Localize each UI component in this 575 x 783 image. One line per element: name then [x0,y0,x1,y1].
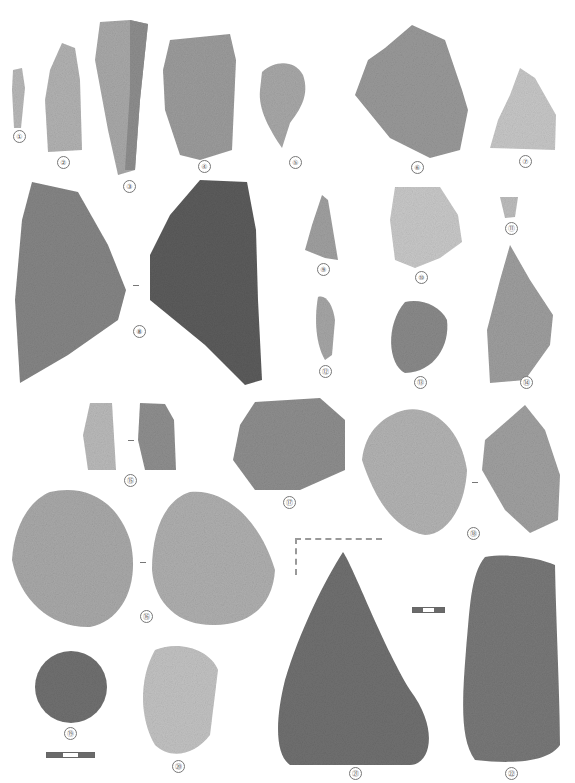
artifact-5 [260,63,306,148]
artifact-10 [390,187,462,268]
artifact-7 [490,68,556,150]
artifact-label-16: ⑯ [140,610,153,623]
artifact-label-9: ⑨ [317,263,330,276]
scale-segment [413,608,423,612]
artifact-label-2: ② [57,156,70,169]
artifact-13 [391,301,447,373]
scale-bar-large-finds [412,607,445,613]
artifact-label-21: ㉑ [349,767,362,780]
artifact-8-face-b [150,180,262,385]
artifact-9 [305,195,338,260]
artifact-label-6: ⑥ [411,161,424,174]
pair-connector-15 [128,440,134,441]
artifact-plate: ① ② ③ ④ ⑤ ⑥ ⑦ ⑧ ⑨ ⑩ ⑪ ⑫ ⑬ ⑭ ⑮ ⑯ ⑰ ⑱ ⑲ ⑳ … [0,0,575,783]
artifact-label-11: ⑪ [505,222,518,235]
artifact-2 [45,43,82,152]
artifact-label-14: ⑭ [520,376,533,389]
artifact-label-22: ㉒ [505,767,518,780]
dashed-frame-corner [295,538,382,575]
scale-segment [78,753,94,757]
scale-segment [434,608,444,612]
artifact-11 [500,197,518,218]
artifact-label-1: ① [13,130,26,143]
artifact-label-15: ⑮ [124,474,137,487]
artifact-14 [487,245,553,383]
artifact-15-face-b [138,403,176,470]
artifact-19 [35,651,107,723]
artifact-16-face-b [152,492,275,625]
artifact-4 [163,34,236,160]
artifact-label-12: ⑫ [319,365,332,378]
artifact-label-4: ④ [198,160,211,173]
scale-segment [47,753,63,757]
pair-connector-16 [140,562,146,563]
scale-segment [63,753,79,757]
artifact-17 [233,398,345,490]
scale-segment [423,608,433,612]
artifact-label-19: ⑲ [64,727,77,740]
artifact-photographs [0,0,575,783]
artifact-20 [143,646,218,754]
scale-bar-small-finds [46,752,95,758]
artifact-label-17: ⑰ [283,496,296,509]
artifact-label-10: ⑩ [415,271,428,284]
artifact-label-8: ⑧ [133,325,146,338]
artifact-18-face-a [362,409,467,535]
artifact-21 [278,552,429,765]
artifact-12 [316,297,335,360]
artifact-label-13: ⑬ [414,376,427,389]
artifact-label-20: ⑳ [172,760,185,773]
artifact-8-face-a [15,182,126,383]
artifact-label-7: ⑦ [519,155,532,168]
artifact-16-face-a [12,490,133,627]
artifact-label-3: ③ [123,180,136,193]
pair-connector-18 [472,482,478,483]
artifact-label-5: ⑤ [289,156,302,169]
artifact-6 [355,25,468,158]
artifact-22 [463,556,560,762]
artifact-15-face-a [83,403,116,470]
pair-connector-8 [133,285,139,286]
artifact-18-face-b [482,405,560,533]
artifact-label-18: ⑱ [467,527,480,540]
artifact-1 [12,68,25,128]
